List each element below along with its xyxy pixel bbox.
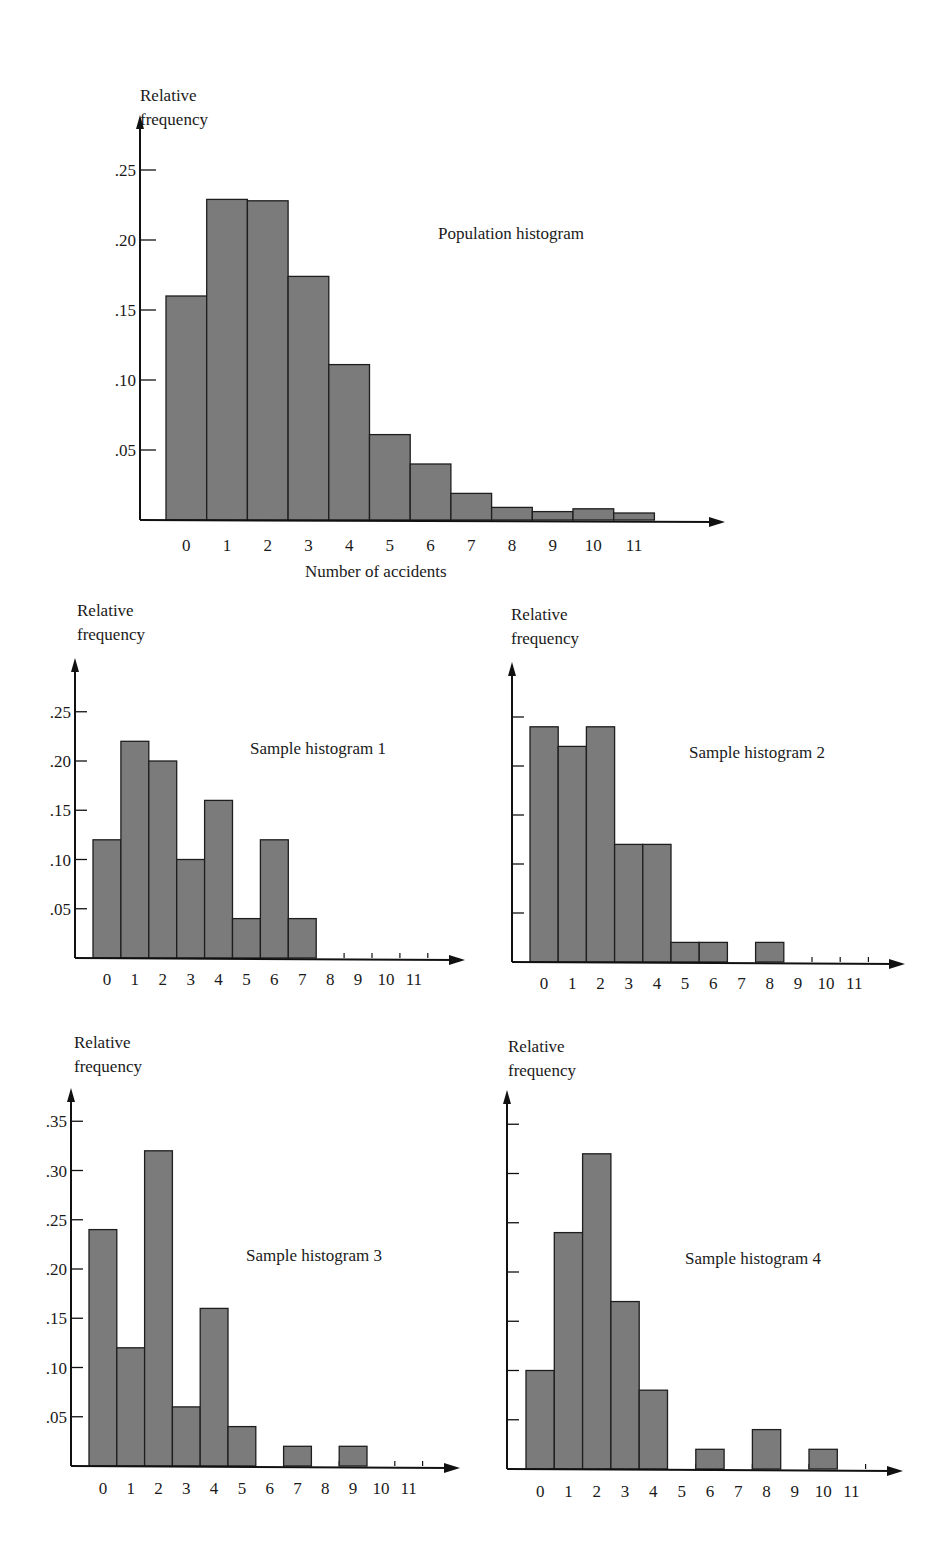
histogram-bar bbox=[526, 1371, 554, 1470]
x-tick-label: 9 bbox=[791, 1482, 800, 1501]
histogram-bar bbox=[639, 1390, 667, 1469]
x-tick-label: 11 bbox=[843, 1482, 859, 1501]
histogram-bar bbox=[696, 1449, 724, 1469]
x-tick-label: 3 bbox=[621, 1482, 630, 1501]
x-tick-label: 7 bbox=[734, 1482, 743, 1501]
histogram-bar bbox=[611, 1302, 639, 1469]
histogram-bar bbox=[583, 1154, 611, 1469]
x-tick-label: 5 bbox=[677, 1482, 686, 1501]
histogram-bar bbox=[809, 1449, 837, 1469]
x-axis-arrow-icon bbox=[887, 1466, 903, 1476]
sample-histogram-4-plot: 01234567891011 bbox=[0, 0, 950, 1554]
x-tick-label: 10 bbox=[815, 1482, 832, 1501]
histogram-bar bbox=[752, 1430, 780, 1469]
x-tick-label: 0 bbox=[536, 1482, 545, 1501]
x-tick-label: 4 bbox=[649, 1482, 658, 1501]
x-tick-label: 2 bbox=[593, 1482, 602, 1501]
histogram-bar bbox=[554, 1233, 582, 1469]
x-tick-label: 8 bbox=[762, 1482, 771, 1501]
x-tick-label: 6 bbox=[706, 1482, 715, 1501]
x-tick-label: 1 bbox=[564, 1482, 573, 1501]
y-axis-arrow-icon bbox=[503, 1090, 511, 1104]
